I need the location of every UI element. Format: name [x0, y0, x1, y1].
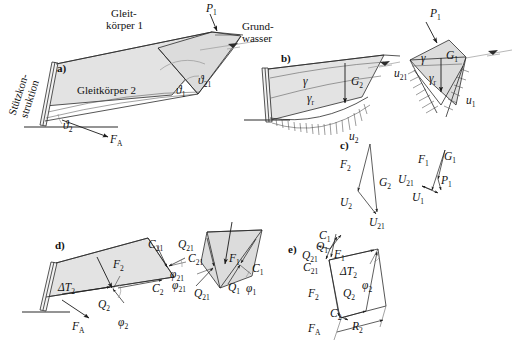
panel-c: c) F2 G2 U2 U21 F1 G1 U21 P1 U1 — [339, 139, 456, 231]
panel-b: b) γ γr — [244, 7, 512, 145]
engineering-figure: a) Gleit- körper 1 Gleitkörper 2 Stützko… — [0, 0, 521, 356]
panel-c-tag: c) — [340, 139, 349, 152]
label-p1-a: P1 — [205, 2, 217, 17]
label-delta-t2-e: ΔT2 — [339, 265, 357, 280]
label-gleitkoerper1-line2: körper 1 — [106, 19, 143, 31]
panel-c-vector-u2 — [358, 191, 376, 214]
panel-a: a) Gleit- körper 1 Gleitkörper 2 Stützko… — [6, 2, 274, 148]
label-u21-c: U21 — [398, 173, 414, 188]
panel-b-load-arrow-p1 — [426, 22, 437, 43]
panel-b-tag: b) — [281, 52, 291, 65]
label-q1-d: Q1 — [228, 281, 240, 296]
label-f1-c: F1 — [417, 153, 429, 168]
label-u1-c: U1 — [412, 191, 424, 206]
label-phi2-e: φ2 — [362, 279, 372, 294]
panel-b-body1-shape — [410, 40, 466, 105]
label-u2-b: u2 — [349, 130, 359, 145]
panel-e-tag: e) — [288, 243, 297, 256]
label-c2-e: C2 — [330, 307, 342, 322]
label-gamma-b-right: γ — [421, 52, 426, 65]
panel-d-normal-line-phi21 — [169, 262, 186, 266]
label-g1-c: G1 — [444, 150, 456, 165]
label-c1-d: C1 — [252, 262, 264, 277]
label-grundwasser-line2: wasser — [242, 32, 272, 44]
label-r2-e: R2 — [351, 320, 363, 335]
label-theta1-a: ϑ1 — [176, 84, 186, 99]
label-fa-d: FA — [71, 320, 85, 335]
panel-c-vector-u1 — [422, 186, 438, 193]
panel-d: d) F2 — [22, 222, 264, 335]
panel-c-vector-f2 — [358, 144, 370, 191]
label-p1-c: P1 — [440, 174, 452, 189]
label-f1-e: F1 — [333, 248, 345, 263]
label-grundwasser-line1: Grund- — [242, 20, 274, 32]
label-fa-a: FA — [109, 133, 123, 148]
label-u21-b: u21 — [394, 67, 408, 82]
panel-e: e) C1 Q1 Q21 C21 F1 ΔT2 φ2 — [288, 229, 386, 340]
panel-d-force-arrow-fa — [62, 300, 89, 318]
label-f2-c: F2 — [339, 158, 351, 173]
figure-page: a) Gleit- körper 1 Gleitkörper 2 Stützko… — [0, 0, 521, 356]
panel-b-body2-shape — [268, 55, 384, 120]
panel-e-phi2-arc — [374, 258, 379, 262]
panel-e-r2-guide1 — [334, 319, 341, 340]
panel-d-tag: d) — [55, 239, 65, 252]
label-p1-b: P1 — [429, 7, 441, 22]
label-q21-d: Q21 — [178, 238, 194, 253]
label-u1-b: u1 — [466, 94, 476, 109]
load-arrow-p1-a — [210, 14, 217, 31]
label-gleitkoerper2: Gleitkörper 2 — [77, 84, 136, 96]
panel-e-vector-c2 — [341, 311, 366, 318]
label-f2-e: F2 — [307, 287, 319, 302]
label-phi1-d: φ1 — [246, 282, 256, 297]
panel-c-vector-g2 — [370, 144, 377, 212]
panel-d-arrow-q21 — [169, 258, 185, 266]
label-q2-d: Q2 — [98, 298, 110, 313]
panel-d-arrow-q2 — [113, 289, 124, 303]
label-u2-c: U2 — [340, 196, 352, 211]
label-stuetzkonstruktion: Stützkon- struktion — [6, 72, 42, 120]
label-c2-d: C2 — [152, 282, 164, 297]
panel-d-phi21-arc — [181, 260, 182, 267]
label-gamma-b: γ — [303, 75, 308, 88]
label-fa-e: FA — [307, 322, 321, 337]
label-c21-wedge-d: C21 — [188, 252, 203, 267]
panel-d-arrow-q21-wedge — [196, 268, 213, 286]
label-u21-c-left: U21 — [369, 216, 385, 231]
label-q2-e: Q2 — [343, 287, 355, 302]
label-gleitkoerper1-line1: Gleit- — [111, 7, 137, 19]
label-theta2-a: ϑ2 — [63, 119, 73, 134]
label-q21-wedge-d: Q21 — [194, 287, 210, 302]
label-g2-c: G2 — [379, 176, 391, 191]
label-phi2-d: φ2 — [118, 316, 128, 331]
panel-e-r2-guide2 — [380, 306, 386, 327]
panel-a-tag: a) — [57, 62, 67, 75]
